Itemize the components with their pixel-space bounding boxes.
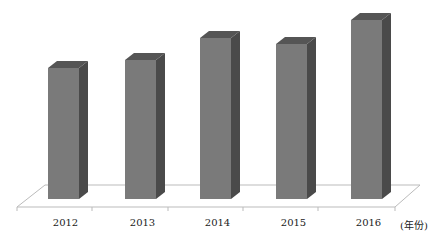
- bar-2015: [276, 37, 316, 199]
- bar-2013: [125, 53, 165, 199]
- x-tick-label-2014: 2014: [205, 217, 230, 228]
- bar-chart-3d: [0, 0, 431, 238]
- bar-2012: [48, 61, 88, 199]
- bar-2014: [200, 31, 240, 199]
- x-tick-label-2013: 2013: [130, 217, 155, 228]
- x-axis-ticks: [17, 207, 395, 211]
- x-tick-label-2012: 2012: [53, 217, 78, 228]
- bar-2016: [351, 13, 391, 199]
- x-tick-label-2016: 2016: [356, 217, 381, 228]
- x-axis-unit-label: (年份): [400, 217, 428, 232]
- bar-series: [48, 13, 391, 199]
- x-tick-label-2015: 2015: [281, 217, 306, 228]
